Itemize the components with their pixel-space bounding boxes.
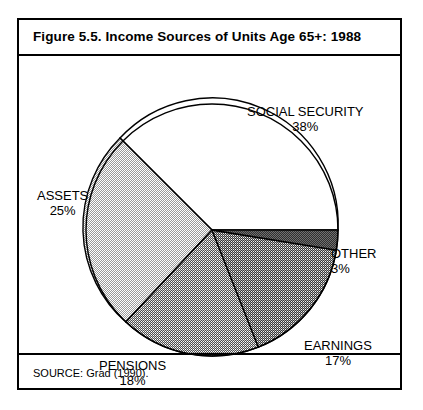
pie-label-social-security-value: 38% [247,119,364,134]
pie-label-earnings-value: 17% [304,353,372,368]
pie-label-social-security-name: SOCIAL SECURITY [247,104,364,119]
pie-label-other-value: 3% [331,261,377,276]
figure-title: Figure 5.5. Income Sources of Units Age … [33,29,361,44]
source-note: SOURCE: Grad (1990). [33,367,149,379]
pie-chart-area: SOCIAL SECURITY 38% ASSETS 25% OTHER 3% … [19,56,400,358]
pie-label-assets-name: ASSETS [37,188,88,203]
pie-label-other: OTHER 3% [331,246,377,277]
pie-label-social-security: SOCIAL SECURITY 38% [247,104,364,135]
figure-frame: Figure 5.5. Income Sources of Units Age … [17,18,402,390]
pie-label-assets-value: 25% [37,203,88,218]
source-divider [19,353,400,355]
pie-label-other-name: OTHER [331,246,377,261]
pie-label-earnings-name: EARNINGS [304,338,372,353]
pie-label-assets: ASSETS 25% [37,188,88,219]
